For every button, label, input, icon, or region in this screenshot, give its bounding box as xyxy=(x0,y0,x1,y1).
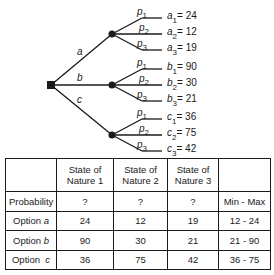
probability-label: p1 xyxy=(136,6,148,20)
table-cell: 12 xyxy=(114,211,168,231)
table-header-cell xyxy=(6,159,57,192)
row-label: Option b xyxy=(6,231,57,251)
outcome-branch xyxy=(112,119,142,135)
outcome-label: a2= 12 xyxy=(167,26,197,41)
table-row: Probability???Min - Max xyxy=(6,192,271,212)
row-label-text: Option xyxy=(12,254,45,265)
row-label-var: a xyxy=(44,215,49,226)
header-text: State of xyxy=(124,164,157,175)
table-header-cell: State ofNature 2 xyxy=(114,159,168,192)
probability-label: p1 xyxy=(136,107,148,121)
outcome-label: b1= 90 xyxy=(167,61,197,76)
chance-node-group-c: p1c1= 36p2c2= 75p3c3= 42 xyxy=(109,107,197,156)
table-row: Option b90302121 - 90 xyxy=(6,231,271,251)
table-cell: 36 xyxy=(57,250,114,270)
header-text: State of xyxy=(177,164,210,175)
option-label-c: c xyxy=(77,94,82,105)
table-cell: 90 xyxy=(57,231,114,251)
header-text: Nature 1 xyxy=(67,175,103,186)
table-cell: 19 xyxy=(168,211,219,231)
header-text: Nature 2 xyxy=(122,175,158,186)
decision-node-square xyxy=(47,81,55,89)
option-label-b: b xyxy=(77,72,83,83)
probability-label: p3 xyxy=(136,89,148,103)
table-row: Option a24121912 - 24 xyxy=(6,211,271,231)
table-cell: ? xyxy=(114,192,168,212)
chance-node xyxy=(109,31,116,38)
table-cell: 24 xyxy=(57,211,114,231)
table-row: Option c36754236 - 75 xyxy=(6,250,271,270)
outcome-label: c1= 36 xyxy=(167,111,197,126)
row-label-var: b xyxy=(44,235,49,246)
header-text: Nature 3 xyxy=(175,175,211,186)
chance-node-group-a: p1a1= 24p2a2= 12p3a3= 19 xyxy=(109,6,198,57)
table-cell: 30 xyxy=(114,231,168,251)
table-cell: ? xyxy=(57,192,114,212)
chance-node xyxy=(109,132,116,139)
header-text: State of xyxy=(69,164,102,175)
row-label-var: c xyxy=(45,254,50,265)
option-branch-c xyxy=(51,85,112,135)
table-cell: 21 xyxy=(168,231,219,251)
table-header-cell: State ofNature 3 xyxy=(168,159,219,192)
outcome-label: b2= 30 xyxy=(167,77,197,92)
table-cell: ? xyxy=(168,192,219,212)
table-cell: 42 xyxy=(168,250,219,270)
table-header-row: State ofNature 1State ofNature 2State of… xyxy=(6,159,271,192)
option-label-a: a xyxy=(77,46,83,57)
table-header-cell xyxy=(219,159,271,192)
table-cell: 75 xyxy=(114,250,168,270)
probability-label: p3 xyxy=(136,139,148,153)
probability-label: p3 xyxy=(136,38,148,52)
table-header-cell: State ofNature 1 xyxy=(57,159,114,192)
outcome-branch xyxy=(112,69,142,85)
outcome-label: c2= 75 xyxy=(167,127,197,142)
probability-label: p1 xyxy=(136,57,148,71)
outcome-label: a3= 19 xyxy=(167,42,197,57)
payoff-table: State ofNature 1State ofNature 2State of… xyxy=(5,158,271,270)
range-cell: 21 - 90 xyxy=(219,231,271,251)
range-cell: 36 - 75 xyxy=(219,250,271,270)
outcome-label: a1= 24 xyxy=(167,10,197,25)
decision-tree: a b c p1a1= 24p2a2= 12p3a3= 19p1b1= 90p2… xyxy=(0,0,274,156)
row-label-text: Probability xyxy=(9,196,53,207)
row-label: Option c xyxy=(6,250,57,270)
chance-node-group-b: p1b1= 90p2b2= 30p3b3= 21 xyxy=(109,57,198,108)
row-label: Option a xyxy=(6,211,57,231)
range-cell: 12 - 24 xyxy=(219,211,271,231)
range-cell: Min - Max xyxy=(219,192,271,212)
outcome-branch xyxy=(112,18,142,34)
outcome-label: c3= 42 xyxy=(167,143,197,156)
row-label-text: Option xyxy=(13,235,44,246)
chance-node xyxy=(109,82,116,89)
row-label: Probability xyxy=(6,192,57,212)
row-label-text: Option xyxy=(13,215,44,226)
outcome-label: b3= 21 xyxy=(167,93,197,108)
